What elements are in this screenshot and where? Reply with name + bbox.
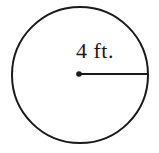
center-point-dot <box>76 71 82 77</box>
circle-diagram-canvas: 4 ft. <box>0 0 159 153</box>
radius-measurement-label: 4 ft. <box>76 38 114 63</box>
geometry-figure: 4 ft. <box>0 0 159 153</box>
